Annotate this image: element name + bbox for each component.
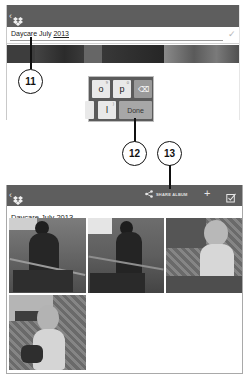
key-o[interactable]: o 9 (92, 80, 110, 98)
callout-11-number: 11 (25, 76, 36, 87)
callout-12-leader (134, 118, 136, 142)
app-bar: ‹ SHARE ALBUM + (7, 185, 242, 206)
photo-strip (7, 45, 239, 63)
key-partial[interactable] (85, 101, 94, 119)
plus-icon: + (204, 187, 210, 199)
callout-13-number: 13 (164, 148, 175, 159)
share-album-button[interactable]: SHARE ALBUM (145, 190, 188, 198)
callout-11: 11 (18, 69, 43, 94)
dropbox-logo-icon[interactable] (13, 191, 23, 200)
add-photo-button[interactable]: + (204, 188, 210, 199)
checkbox-icon (226, 193, 236, 203)
keyboard-fragment: o 9 p 0 ⌫ l ) Done (88, 76, 154, 122)
dropbox-logo-icon[interactable] (13, 12, 23, 21)
confirm-check-icon[interactable]: ✓ (228, 29, 236, 39)
backspace-icon: ⌫ (138, 85, 149, 94)
callout-12: 12 (122, 141, 147, 166)
callout-11-leader (30, 37, 32, 69)
callout-12-number: 12 (129, 148, 140, 159)
select-button[interactable] (226, 189, 236, 207)
back-chevron-icon[interactable]: ‹ (9, 12, 12, 21)
album-name-field[interactable]: Daycare July 2013 ✓ (7, 27, 239, 44)
photo-thumb (35, 45, 85, 63)
photo-child-chair-1[interactable] (9, 218, 86, 293)
done-key[interactable]: Done (119, 101, 152, 119)
back-chevron-icon[interactable]: ‹ (9, 191, 12, 200)
callout-13: 13 (157, 141, 182, 166)
input-underline (10, 40, 223, 41)
key-l-hint: ) (113, 101, 114, 106)
key-l[interactable]: l ) (98, 101, 116, 119)
share-album-label: SHARE ALBUM (156, 192, 188, 197)
key-l-label: l (106, 105, 108, 115)
key-p[interactable]: p 0 (113, 80, 131, 98)
callout-13-leader (169, 165, 171, 189)
share-icon (145, 190, 153, 198)
photo-child-chair-2[interactable] (88, 218, 164, 293)
photo-baby-wicker-1[interactable] (166, 218, 243, 293)
backspace-key[interactable]: ⌫ (134, 80, 152, 98)
photo-thumb (102, 45, 163, 63)
album-name-text: Daycare July (11, 30, 53, 37)
photo-thumb (164, 45, 239, 63)
album-name-underlined-word: 2013 (53, 30, 69, 37)
key-p-hint: 0 (127, 80, 129, 85)
app-bar: ‹ (7, 5, 239, 27)
photo-thumb (84, 45, 102, 63)
done-key-label: Done (127, 107, 144, 114)
key-o-label: o (98, 84, 103, 94)
key-o-hint: 9 (106, 80, 108, 85)
album-name-input[interactable]: Daycare July 2013 (11, 30, 69, 37)
key-p-label: p (119, 84, 124, 94)
album-view-screen: ‹ SHARE ALBUM + (6, 185, 243, 374)
photo-baby-wicker-2[interactable] (9, 295, 86, 370)
